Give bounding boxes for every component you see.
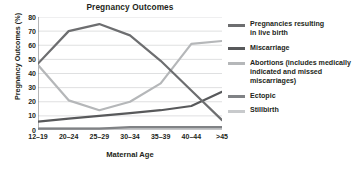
- x-axis-tick-label: 20–24: [59, 133, 78, 140]
- legend-swatch-icon: [228, 24, 245, 27]
- legend-item-label: Ectopic: [250, 92, 276, 101]
- legend-item[interactable]: Stillbirth: [228, 106, 363, 115]
- legend-swatch-icon: [228, 62, 245, 65]
- y-axis-tick-label: 40: [20, 70, 36, 77]
- x-axis-title: Maternal Age: [38, 150, 222, 159]
- x-axis-tick-label: 40–44: [182, 133, 201, 140]
- x-axis-tick-label: 30–34: [120, 133, 139, 140]
- legend-item[interactable]: Miscarriage: [228, 44, 363, 53]
- legend-item-label: Stillbirth: [250, 106, 279, 115]
- legend-item-label: Pregnancies resulting in live birth: [250, 20, 324, 38]
- x-axis-tick-label: 35–39: [151, 133, 170, 140]
- x-axis-tick-label: 25–29: [90, 133, 109, 140]
- y-axis-tick-label: 60: [20, 42, 36, 49]
- plot-svg: [38, 17, 222, 130]
- y-axis-tick-label: 80: [20, 14, 36, 21]
- y-axis-tick-label: 50: [20, 56, 36, 63]
- chart-legend: Pregnancies resulting in live birthMisca…: [228, 20, 363, 121]
- legend-swatch-icon: [228, 110, 245, 113]
- x-axis-tick-label: >45: [216, 133, 228, 140]
- y-axis-tick-label: 20: [20, 98, 36, 105]
- plot-area: [38, 17, 222, 130]
- chart-figure: Pregnancy Outcomes Pregnancy Outcomes (%…: [0, 0, 363, 172]
- y-axis-tick-label: 10: [20, 112, 36, 119]
- y-axis-tick-label: 30: [20, 84, 36, 91]
- legend-item-label: Miscarriage: [250, 44, 289, 53]
- legend-swatch-icon: [228, 95, 245, 98]
- legend-item[interactable]: Ectopic: [228, 92, 363, 101]
- legend-item[interactable]: Abortions (includes medically indicated …: [228, 59, 363, 87]
- legend-swatch-icon: [228, 47, 245, 50]
- series-line: [38, 41, 222, 110]
- x-axis-tick-labels: 12–1920–2425–2930–3435–3940–44>45: [38, 133, 222, 145]
- legend-item[interactable]: Pregnancies resulting in live birth: [228, 20, 363, 38]
- x-axis-tick-label: 12–19: [28, 133, 47, 140]
- y-axis-tick-label: 70: [20, 28, 36, 35]
- chart-title: Pregnancy Outcomes: [55, 2, 205, 12]
- y-axis-tick-labels: 01020304050607080: [18, 17, 36, 130]
- legend-item-label: Abortions (includes medically indicated …: [250, 59, 351, 87]
